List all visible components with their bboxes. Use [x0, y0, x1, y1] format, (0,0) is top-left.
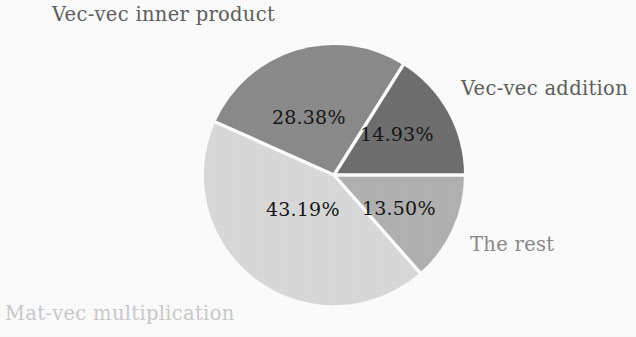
slice-value-mat-vec-multiplication: 43.19%	[266, 198, 340, 220]
slice-label-the-rest: The rest	[470, 233, 554, 256]
slice-value-vec-vec-inner-product: 28.38%	[272, 106, 346, 128]
pie-chart-figure: 28.38% 14.93% 13.50% 43.19% Vec-vec inne…	[0, 0, 636, 337]
slice-value-the-rest: 13.50%	[362, 197, 436, 219]
slice-label-vec-vec-addition: Vec-vec addition	[461, 77, 628, 100]
chart-area: 28.38% 14.93% 13.50% 43.19% Vec-vec inne…	[0, 0, 636, 337]
pie-svg	[0, 0, 636, 337]
slice-label-vec-vec-inner-product: Vec-vec inner product	[52, 3, 275, 26]
slice-label-mat-vec-multiplication: Mat-vec multiplication	[5, 302, 235, 325]
slice-value-vec-vec-addition: 14.93%	[360, 123, 434, 145]
